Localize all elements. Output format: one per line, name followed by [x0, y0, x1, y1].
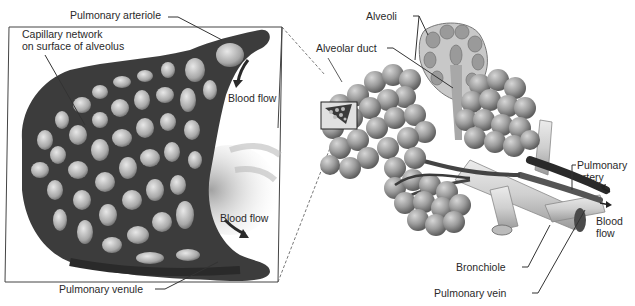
magnification-lines	[278, 27, 330, 282]
label-alveolar-duct: Alveolar duct	[316, 42, 377, 54]
label-pulmonary-vein: Pulmonary vein	[434, 287, 506, 299]
label-blood-flow-line2: flow	[596, 227, 615, 239]
label-capillary-network-line1: Capillary network	[22, 28, 103, 40]
label-blood-flow-top: Blood flow	[228, 92, 276, 104]
label-blood-flow-line1: Blood	[596, 215, 623, 227]
label-pulmonary-artery-line2: artery	[577, 171, 604, 183]
label-pulmonary-arteriole: Pulmonary arteriole	[70, 9, 161, 21]
capillary-network-panel	[5, 17, 282, 289]
label-pulmonary-artery-line1: Pulmonary	[577, 159, 627, 171]
label-bronchiole: Bronchiole	[456, 261, 506, 273]
label-capillary-network-line2: on surface of alveolus	[22, 40, 124, 52]
alveolar-sac-panel	[320, 16, 612, 293]
label-blood-flow-bottom: Blood flow	[220, 212, 268, 224]
label-alveoli: Alveoli	[366, 10, 397, 22]
label-pulmonary-venule: Pulmonary venule	[59, 283, 143, 295]
